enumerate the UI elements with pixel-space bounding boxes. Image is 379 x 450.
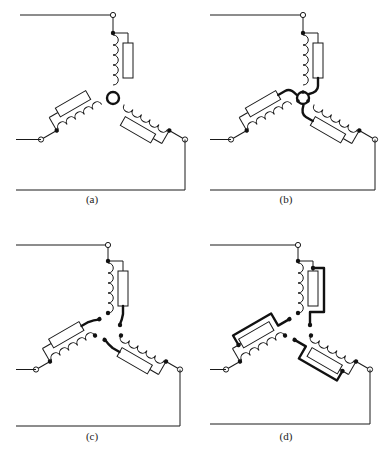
branch-left	[31, 87, 103, 141]
branch-top	[106, 243, 128, 327]
figure-canvas	[0, 0, 379, 450]
terminal-top	[295, 242, 300, 247]
branch-top	[301, 15, 323, 94]
terminal-top	[105, 242, 110, 247]
branch-right	[99, 326, 183, 387]
branch-top	[111, 15, 133, 85]
branch-left	[211, 306, 298, 373]
panel-d	[210, 242, 373, 424]
panel-label-d: (d)	[280, 430, 293, 442]
branch-left	[24, 311, 108, 372]
branch-left	[221, 83, 301, 142]
panel-b	[210, 12, 378, 190]
panel-label-a: (a)	[86, 193, 98, 205]
panel-label-c: (c)	[86, 430, 98, 442]
branch-right	[296, 98, 376, 157]
panel-label-b: (b)	[280, 193, 293, 205]
panel-a	[16, 12, 188, 190]
terminal-top	[110, 12, 115, 17]
panel-c	[16, 242, 183, 426]
terminal-top	[300, 12, 305, 17]
branch-right	[114, 103, 186, 157]
branch-right	[286, 326, 373, 393]
branch-top	[296, 243, 324, 327]
star-point-ring	[107, 92, 119, 104]
